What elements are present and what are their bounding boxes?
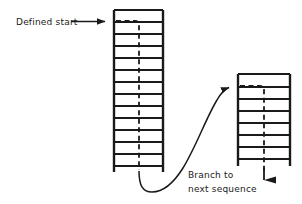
ladder-sequence-diagram: Defined start Branch to next sequence [0,0,302,204]
defined-start-label: Defined start [16,17,78,27]
branch-label-line-2: next sequence [188,184,257,194]
diagram-canvas: Defined start Branch to next sequence [0,0,302,204]
diagram-background [0,0,302,204]
branch-label-line-1: Branch to [188,170,234,180]
